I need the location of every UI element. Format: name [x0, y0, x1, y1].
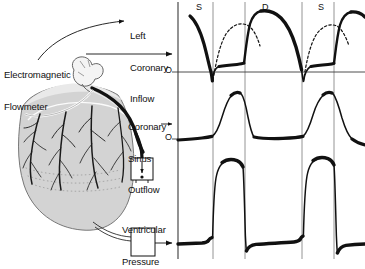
label-left-coronary-inflow-line2: Coronary: [130, 63, 168, 74]
trace-ventricular-pressure: [178, 158, 365, 253]
inflow-trace-solid-a: [190, 16, 212, 81]
label-ventricular-pressure-line2: Pressure: [122, 257, 166, 268]
inflow-trace-plateau-a: [219, 63, 244, 66]
outflow-baseline-a: [178, 136, 212, 140]
lvp-enddiastolic-step-a: [208, 238, 212, 241]
label-left-coronary-inflow-line1: Left: [130, 31, 168, 42]
lvp-tail: [337, 244, 365, 253]
lvp-enddiastolic-step-b: [300, 236, 303, 239]
outflow-peak-a: [212, 92, 241, 136]
recording-chart: [172, 2, 365, 259]
phase-marker-systole-2: S: [318, 2, 324, 12]
zero-marker-inflow: O: [165, 65, 172, 75]
outflow-baseline-b: [254, 136, 303, 138]
phase-marker-diastole: D: [262, 2, 269, 12]
lvp-downstroke-b: [334, 165, 337, 253]
label-electromagnetic-flowmeter-line2: Flowmeter: [4, 102, 71, 113]
lvp-baseline-b: [246, 240, 300, 251]
label-coronary-sinus-outflow-line1: Coronary: [128, 122, 166, 133]
lvp-baseline-a: [178, 241, 208, 244]
label-electromagnetic-flowmeter-line1: Electromagnetic: [4, 70, 71, 81]
lvp-plateau-a: [222, 160, 243, 167]
lvp-upstroke-a: [213, 161, 227, 238]
outflow-peak-b: [303, 92, 333, 136]
inflow-diastolic-dome-b: [351, 12, 365, 17]
inflow-diastolic-upstroke-a: [244, 11, 261, 63]
label-ventricular-pressure-line1: Ventricular: [122, 225, 166, 236]
outflow-tail: [352, 139, 365, 145]
lvp-plateau-b: [313, 158, 334, 165]
label-ventricular-pressure: Ventricular Pressure: [122, 204, 166, 269]
label-electromagnetic-flowmeter: Electromagnetic Flowmeter: [4, 49, 71, 133]
outflow-peak-crest-a: [231, 92, 240, 95]
label-coronary-sinus-outflow-line2: Sinus: [128, 154, 166, 165]
outflow-peak-crest-b: [323, 92, 332, 95]
inflow-diastolic-upstroke-b: [334, 12, 351, 63]
zero-marker-outflow: O: [165, 132, 172, 142]
lvp-upstroke-b: [303, 159, 318, 236]
trace-coronary-sinus-outflow: [178, 92, 365, 145]
inflow-trace-dashed-b: [304, 25, 350, 81]
inflow-diastolic-dome-a: [261, 11, 302, 70]
outflow-descent-b: [333, 94, 352, 140]
phase-marker-systole-1: S: [196, 2, 202, 12]
cycle-gridlines: [213, 2, 334, 259]
label-coronary-sinus-outflow: Coronary Sinus Outflow: [128, 101, 166, 217]
inflow-trace-plateau-b: [311, 63, 334, 66]
trace-left-coronary-inflow: [190, 11, 365, 82]
outflow-descent-a: [241, 94, 254, 138]
label-coronary-sinus-outflow-line3: Outflow: [128, 185, 166, 196]
